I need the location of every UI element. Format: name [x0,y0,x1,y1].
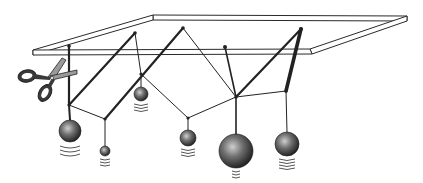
string-n5-n6 [236,91,286,97]
anchor-dot [67,44,71,48]
frame-back-bar [153,15,407,21]
vibration-icon [232,171,240,178]
junction-node [103,117,106,120]
frame [33,15,407,55]
vibration-icon [60,146,80,156]
vibration-icon [181,149,195,157]
string-n6-b6 [286,91,287,132]
ball-small [100,146,110,156]
anchor-dot [223,45,227,49]
string-n4-n5 [188,97,236,118]
anchor-dot [133,31,137,35]
diagram-canvas [0,0,423,183]
string-n3-n4 [141,74,188,118]
scissors-pivot [50,76,53,79]
junction-nodes [67,72,287,120]
string-n1-b1 [69,105,70,120]
ball-medium-small [134,87,148,101]
pendulum-diagram: Coupled pendulums hanging from a frame, … [0,0,423,183]
ball-large-right [275,132,299,156]
balls [59,87,299,168]
anchor-dot [299,27,303,31]
junction-node [186,116,189,119]
vibration-icon [134,104,148,112]
ball-largest [219,134,253,168]
ball-medium [180,130,196,146]
junction-node [139,72,142,75]
strings [69,28,301,146]
frame-front-bar [33,49,312,55]
scissors-arm-left [35,74,50,80]
frame-right-bar [310,16,407,54]
junction-node [67,103,70,106]
junction-node [284,89,287,92]
ball-large-left [59,120,81,142]
junction-node [234,95,238,99]
vibration-icon [100,159,110,166]
anchor-dot [181,26,185,30]
string-n1-n2 [69,105,105,119]
vibration-icon [279,159,295,170]
